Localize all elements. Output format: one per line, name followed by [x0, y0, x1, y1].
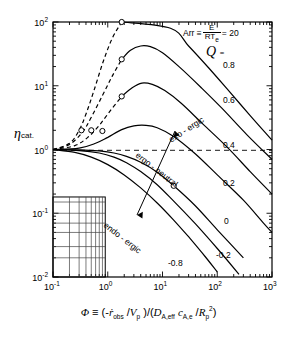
- curve-0.6: [122, 46, 272, 160]
- inset-grid-box: [53, 197, 105, 277]
- curve-label-0: 0: [224, 216, 229, 226]
- arr-value: = 20: [222, 28, 239, 38]
- curve-label-0.8: 0.8: [223, 60, 235, 70]
- y-axis-label: ηcat.: [14, 126, 34, 142]
- curve-label-0.6: 0.6: [223, 95, 235, 105]
- arr-prefix: Arr: [183, 28, 194, 38]
- x-tick-label: 100: [99, 280, 113, 292]
- series-symbol: Q: [206, 44, 216, 59]
- series-symbol-equals: =: [220, 49, 225, 58]
- curve-0.4: [122, 83, 272, 194]
- arrhenius-annotation: Arr ≡ERTe= 20: [183, 24, 239, 44]
- marker-knee-0: [79, 128, 84, 133]
- curve-label-0.2: 0.2: [223, 178, 235, 188]
- arr-fraction: ERTe: [203, 24, 221, 44]
- x-tick-label: 101: [154, 280, 168, 292]
- arr-denominator: RTe: [203, 33, 221, 43]
- marker-knee-1: [89, 128, 94, 133]
- y-tick-label: 101: [22, 80, 48, 92]
- marker-0.4: [119, 94, 124, 99]
- y-tick-label: 102: [22, 16, 48, 28]
- y-tick-label: 100: [22, 144, 48, 156]
- curve-0.4-dashed: [53, 96, 122, 149]
- y-tick-label: 10-1: [22, 207, 48, 219]
- marker-knee-2: [100, 128, 105, 133]
- curve-label--0.8: -0.8: [168, 258, 183, 268]
- curve-label-0.4: 0.4: [223, 140, 235, 150]
- arr-equiv: ≡: [197, 28, 202, 38]
- x-axis-label: Φ ≡ (-ṙobs /Vp )/(DA,eff cA,e /Rp2): [0, 305, 297, 320]
- x-tick-label: 102: [208, 280, 222, 292]
- x-tick-label: 103: [263, 280, 277, 292]
- series-symbol-legend: Q =: [206, 44, 224, 60]
- y-axis-label-subscript: cat.: [21, 131, 34, 140]
- curve-label--0.2: -0.2: [216, 250, 231, 260]
- marker-0.8: [119, 19, 124, 24]
- marker-0.6: [119, 57, 124, 62]
- curve-0.8-dashed: [53, 22, 122, 150]
- y-tick-label: 10-2: [22, 271, 48, 283]
